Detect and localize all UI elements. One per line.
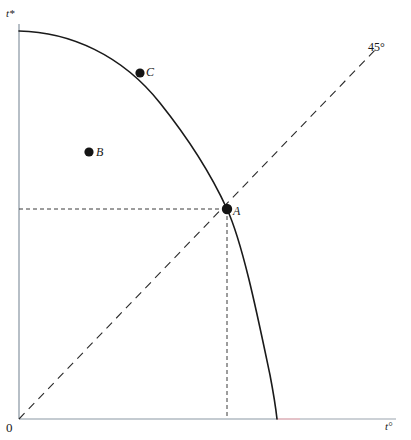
forty-five-degree-label: 45° <box>368 41 385 53</box>
y-axis-label: t* <box>6 8 15 19</box>
forty-five-degree-line <box>19 50 375 419</box>
data-point-b <box>84 147 93 156</box>
point-c-label: C <box>146 66 154 78</box>
data-point-a <box>222 204 232 214</box>
origin-label: 0 <box>6 421 13 434</box>
data-point-c <box>135 68 144 77</box>
frontier-curve <box>19 31 277 419</box>
diagram-canvas <box>0 0 411 440</box>
point-a-label: A <box>233 205 240 217</box>
point-b-label: B <box>96 146 103 158</box>
x-axis-label: t° <box>385 421 392 432</box>
economics-frontier-diagram: t* t° 0 45° A B C <box>0 0 411 440</box>
